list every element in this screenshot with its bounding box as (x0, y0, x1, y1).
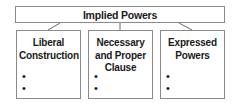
root-node-label: Implied Powers (83, 9, 157, 21)
child-node-title: Expressed Powers (161, 37, 224, 62)
bullet-item (94, 71, 98, 83)
child-node-liberal-construction: Liberal Construction (16, 30, 81, 99)
bullet-item (166, 83, 170, 95)
bullet-list (166, 71, 170, 94)
bullet-item (22, 83, 26, 95)
root-node-implied-powers: Implied Powers (15, 6, 225, 23)
child-node-expressed-powers: Expressed Powers (160, 30, 225, 99)
bullet-item (22, 71, 26, 83)
child-node-title: Necessary and Proper Clause (89, 37, 152, 75)
bullet-list (22, 71, 26, 94)
child-node-title: Liberal Construction (17, 37, 80, 62)
child-node-necessary-and-proper-clause: Necessary and Proper Clause (88, 30, 153, 99)
bullet-list (94, 71, 98, 94)
bullet-item (166, 71, 170, 83)
bullet-item (94, 83, 98, 95)
